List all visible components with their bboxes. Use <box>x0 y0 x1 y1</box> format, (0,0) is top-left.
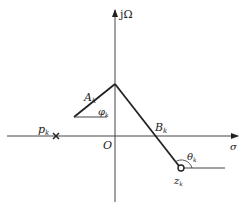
zero-label: zk <box>173 175 183 187</box>
zero-circle-icon <box>178 165 184 171</box>
s-plane-diagram: jΩ σ O Ak φk Bk θk pk zk <box>0 0 247 215</box>
vector-a-label: Ak <box>83 91 96 105</box>
vector-b <box>115 84 179 166</box>
origin-label: O <box>103 139 112 152</box>
jomega-axis-label: jΩ <box>118 8 133 21</box>
theta-angle-label: θk <box>187 151 197 163</box>
phi-angle-label: φk <box>98 106 109 118</box>
sigma-axis-label: σ <box>230 141 238 152</box>
vector-b-label: Bk <box>154 121 167 135</box>
pole-label: pk <box>38 123 49 137</box>
